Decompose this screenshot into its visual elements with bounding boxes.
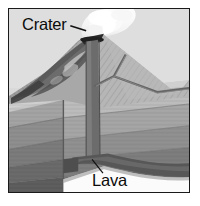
volcano-scene bbox=[9, 9, 189, 192]
magma-conduit bbox=[86, 40, 100, 160]
lava-label: Lava bbox=[92, 172, 127, 189]
volcano-diagram-figure: Crater Lava bbox=[0, 0, 200, 206]
diagram-frame: Crater Lava bbox=[8, 8, 190, 193]
strata-side-face bbox=[9, 98, 63, 192]
crater-label: Crater bbox=[22, 16, 67, 33]
